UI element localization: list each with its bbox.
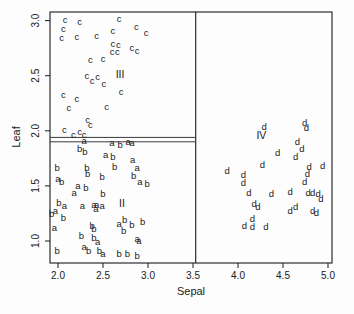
data-point-c: c bbox=[95, 71, 100, 82]
data-point-d: d bbox=[302, 176, 307, 187]
data-point-a: a bbox=[136, 235, 142, 246]
data-point-c: c bbox=[135, 45, 140, 56]
data-point-c: c bbox=[84, 70, 89, 81]
data-point-c: c bbox=[59, 32, 64, 43]
data-point-a: a bbox=[137, 176, 143, 187]
data-point-d: d bbox=[314, 207, 319, 218]
group-annotations: IIIIIIV bbox=[116, 68, 267, 209]
data-point-d: d bbox=[250, 221, 255, 232]
data-points: aaaaaaaaaaaaaaaaaaaaaaaaabbbbbbbbbbbbbbb… bbox=[49, 13, 325, 261]
axis-ticks: 2.02.53.03.54.04.55.01.01.52.02.53.0 bbox=[30, 13, 335, 281]
data-point-b: b bbox=[117, 139, 122, 150]
cluster-label-III: III bbox=[116, 68, 125, 80]
data-point-b: b bbox=[110, 151, 115, 162]
data-point-b: b bbox=[135, 250, 140, 261]
data-point-d: d bbox=[242, 220, 247, 231]
data-point-a: a bbox=[99, 200, 105, 211]
y-tick-label: 1.0 bbox=[30, 234, 41, 248]
x-tick-label: 3.0 bbox=[141, 270, 155, 281]
data-point-d: d bbox=[304, 122, 309, 133]
data-point-c: c bbox=[71, 129, 76, 140]
data-point-b: b bbox=[129, 219, 134, 230]
data-point-b: b bbox=[56, 197, 61, 208]
data-point-b: b bbox=[61, 212, 66, 223]
data-point-d: d bbox=[293, 151, 298, 162]
data-point-b: b bbox=[117, 248, 122, 259]
data-point-a: a bbox=[62, 200, 68, 211]
data-point-d: d bbox=[246, 187, 251, 198]
data-point-a: a bbox=[103, 149, 109, 160]
x-tick-label: 2.5 bbox=[96, 270, 110, 281]
data-point-b: b bbox=[131, 170, 136, 181]
scatter-plot-canvas: 2.02.53.03.54.04.55.01.01.52.02.53.0 aaa… bbox=[0, 0, 354, 314]
data-point-c: c bbox=[82, 129, 87, 140]
y-tick-label: 1.5 bbox=[30, 179, 41, 193]
data-point-c: c bbox=[104, 101, 109, 112]
data-point-d: d bbox=[269, 188, 274, 199]
cluster-label-II: II bbox=[119, 197, 125, 209]
data-point-c: c bbox=[66, 102, 71, 113]
data-point-d: d bbox=[255, 201, 260, 212]
data-point-c: c bbox=[119, 86, 124, 97]
data-point-b: b bbox=[82, 146, 87, 157]
x-axis-label: Sepal bbox=[177, 285, 205, 297]
data-point-b: b bbox=[86, 245, 91, 256]
data-point-b: b bbox=[54, 162, 59, 173]
x-tick-label: 4.0 bbox=[231, 270, 245, 281]
data-point-c: c bbox=[94, 30, 99, 41]
data-point-c: c bbox=[110, 46, 115, 57]
data-point-d: d bbox=[299, 143, 304, 154]
x-tick-label: 3.5 bbox=[186, 270, 200, 281]
data-point-c: c bbox=[101, 53, 106, 64]
data-point-b: b bbox=[122, 214, 127, 225]
data-point-a: a bbox=[52, 222, 58, 233]
data-point-c: c bbox=[144, 27, 149, 38]
data-point-a: a bbox=[93, 203, 99, 214]
data-point-d: d bbox=[225, 165, 230, 176]
y-tick-label: 2.0 bbox=[30, 123, 41, 137]
data-point-b: b bbox=[83, 182, 88, 193]
data-point-d: d bbox=[275, 147, 280, 158]
data-point-c: c bbox=[117, 13, 122, 24]
data-point-c: c bbox=[134, 21, 139, 32]
data-point-b: b bbox=[100, 188, 105, 199]
data-point-d: d bbox=[288, 186, 293, 197]
data-point-d: d bbox=[263, 221, 268, 232]
data-point-c: c bbox=[102, 78, 107, 89]
data-point-b: b bbox=[140, 216, 145, 227]
data-point-b: b bbox=[97, 245, 102, 256]
x-tick-label: 5.0 bbox=[321, 270, 335, 281]
data-point-d: d bbox=[318, 193, 323, 204]
data-point-b: b bbox=[54, 245, 59, 256]
data-point-c: c bbox=[129, 42, 134, 53]
data-point-c: c bbox=[62, 124, 67, 135]
data-point-d: d bbox=[293, 201, 298, 212]
data-point-a: a bbox=[129, 137, 135, 148]
data-point-c: c bbox=[115, 46, 120, 57]
scatter-plot-figure: 2.02.53.03.54.04.55.01.01.52.02.53.0 aaa… bbox=[0, 0, 354, 314]
data-point-d: d bbox=[320, 160, 325, 171]
data-point-d: d bbox=[260, 159, 265, 170]
data-point-b: b bbox=[112, 161, 117, 172]
x-tick-label: 4.5 bbox=[276, 270, 290, 281]
data-point-d: d bbox=[288, 205, 293, 216]
y-axis-label: Leaf bbox=[10, 125, 22, 147]
data-point-b: b bbox=[91, 232, 96, 243]
data-point-b: b bbox=[125, 248, 130, 259]
data-point-c: c bbox=[75, 31, 80, 42]
data-point-b: b bbox=[121, 225, 126, 236]
data-point-b: b bbox=[49, 208, 54, 219]
data-point-b: b bbox=[59, 176, 64, 187]
data-point-b: b bbox=[99, 171, 104, 182]
data-point-a: a bbox=[80, 200, 86, 211]
data-point-c: c bbox=[77, 16, 82, 27]
data-point-c: c bbox=[90, 75, 95, 86]
data-point-b: b bbox=[85, 168, 90, 179]
y-tick-label: 2.5 bbox=[30, 68, 41, 82]
data-point-a: a bbox=[72, 187, 78, 198]
data-point-c: c bbox=[111, 25, 116, 36]
data-point-c: c bbox=[75, 93, 80, 104]
y-tick-label: 3.0 bbox=[30, 13, 41, 27]
data-point-c: c bbox=[88, 54, 93, 65]
data-point-c: c bbox=[88, 119, 93, 130]
